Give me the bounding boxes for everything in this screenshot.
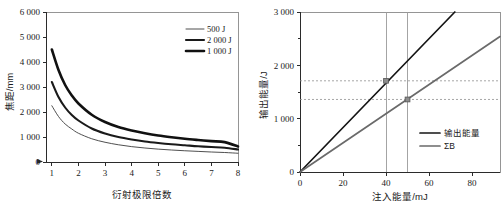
left-chart-legend: 500 J2 000 J1 000 J xyxy=(186,24,232,56)
right-chart-frame xyxy=(300,12,500,172)
left-y-tick-label: 1 000 xyxy=(20,132,41,142)
left-legend-label: 1 000 J xyxy=(207,46,232,56)
left-y-ticks: 01 0002 0003 0004 0005 0006 000 xyxy=(20,7,46,167)
right-series-ΣB xyxy=(300,37,500,172)
left-series-1-000-J xyxy=(52,50,238,147)
right-x-tick-label: 0 xyxy=(298,178,303,188)
left-y-tick-label: 2 000 xyxy=(20,107,41,117)
right-horizontal-guides xyxy=(300,81,500,100)
right-x-tick-label: 80 xyxy=(468,178,478,188)
left-y-tick-label: 5 000 xyxy=(20,32,41,42)
left-x-tick-label: 6 xyxy=(183,168,188,178)
right-plot-frame xyxy=(300,12,500,172)
right-x-tick-label: 20 xyxy=(339,178,349,188)
right-y-axis-title: 输出能量/J xyxy=(258,71,269,119)
left-x-tick-label: 7 xyxy=(209,168,214,178)
left-y-tick-label: 3 000 xyxy=(20,82,41,92)
left-x-tick-label: 3 xyxy=(103,168,108,178)
right-chart-legend: 输出能量ΣB xyxy=(420,128,480,151)
right-data-marker xyxy=(384,78,389,83)
left-x-tick-label: 1 xyxy=(50,168,55,178)
right-y-tick-label: 1 000 xyxy=(274,114,295,124)
left-legend-label: 500 J xyxy=(207,24,226,34)
left-y-tick-label: 4 000 xyxy=(20,57,41,67)
right-y-tick-label: 2 000 xyxy=(274,61,295,71)
left-x-tick-label: 5 xyxy=(156,168,161,178)
left-series-2-000-J xyxy=(52,82,238,150)
left-y-tick-label: 0 xyxy=(36,157,41,167)
right-chart-svg: 01 0002 0003 000 020406080 输出能量ΣB 输出能量/J… xyxy=(252,0,504,205)
right-x-ticks: 020406080 xyxy=(298,172,477,188)
right-legend-label: ΣB xyxy=(444,141,455,151)
figure-root: 01 0002 0003 0004 0005 0006 000 12345678… xyxy=(0,0,504,205)
right-vertical-guides xyxy=(386,12,408,172)
right-x-tick-label: 40 xyxy=(382,178,392,188)
right-x-axis-title: 注入能量/mJ xyxy=(372,191,428,202)
left-data-curves xyxy=(52,50,238,154)
right-y-ticks: 01 0002 0003 000 xyxy=(274,7,300,177)
left-y-axis-title: 焦距/mm xyxy=(4,73,15,112)
left-y-tick-label: 6 000 xyxy=(20,7,41,17)
left-x-axis-title: 衍射极限倍数 xyxy=(112,189,172,200)
right-legend-label: 输出能量 xyxy=(444,128,480,138)
right-y-tick-label: 3 000 xyxy=(274,7,295,17)
left-x-tick-label: 8 xyxy=(236,168,241,178)
right-data-markers xyxy=(384,78,410,101)
left-x-tick-label: 2 xyxy=(76,168,81,178)
right-chart-panel: 01 0002 0003 000 020406080 输出能量ΣB 输出能量/J… xyxy=(252,0,504,205)
right-data-marker xyxy=(405,97,410,102)
right-data-lines xyxy=(300,12,500,172)
right-x-tick-label: 60 xyxy=(425,178,435,188)
left-x-ticks: 12345678 xyxy=(50,162,241,178)
right-series-输出能量 xyxy=(300,12,455,172)
left-x-tick-label: 4 xyxy=(129,168,134,178)
left-chart-panel: 01 0002 0003 0004 0005 0006 000 12345678… xyxy=(0,0,252,205)
right-y-tick-label: 0 xyxy=(290,167,295,177)
left-legend-label: 2 000 J xyxy=(207,35,232,45)
left-chart-svg: 01 0002 0003 0004 0005 0006 000 12345678… xyxy=(0,0,252,205)
